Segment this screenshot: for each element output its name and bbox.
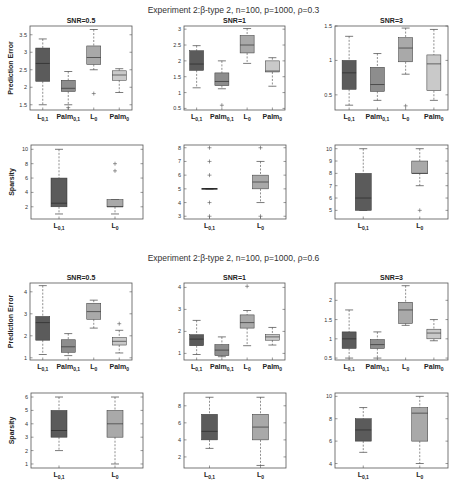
y-tick-label: 9	[329, 158, 332, 164]
y-tick-label: 3	[25, 434, 28, 440]
y-tick-label: 1.5	[19, 102, 27, 108]
box	[87, 46, 101, 65]
y-tick-label: 6	[178, 420, 181, 426]
y-tick-label: 6	[329, 195, 332, 201]
y-tick-label: 2	[25, 204, 28, 210]
x-tick-label: L0	[402, 113, 409, 122]
y-axis-label: Sparsity	[8, 168, 16, 196]
x-tick-label: L0,1	[358, 222, 369, 231]
y-tick-label: 4	[178, 200, 181, 206]
x-tick-label: L0,1	[37, 113, 48, 122]
boxplot-panel: 2468L0,1L0	[178, 393, 286, 480]
y-tick-label: 10	[22, 146, 28, 152]
x-tick-label: Palm0,1	[366, 363, 390, 372]
y-tick-label: 7	[329, 183, 332, 189]
axes-frame	[31, 393, 143, 468]
box	[399, 38, 413, 62]
y-tick-label: 4	[25, 421, 28, 427]
x-tick-label: Palm0,1	[210, 113, 234, 122]
y-tick-label: 0.5	[173, 105, 181, 111]
y-tick-label: 1.5	[173, 74, 181, 80]
x-tick-label: L0,1	[191, 113, 202, 122]
panel-title: SNR=3	[380, 17, 403, 24]
box	[190, 335, 204, 346]
boxplot-panel: 0.511.52SNR=3L0,1Palm0,1L0Palm0	[324, 274, 448, 372]
y-tick-label: 2	[24, 333, 27, 339]
axes-frame	[335, 393, 448, 468]
box	[355, 173, 371, 210]
x-tick-label: L0,1	[204, 222, 215, 231]
axes-frame	[184, 393, 286, 468]
y-tick-label: 4	[24, 289, 27, 295]
y-tick-label: 7	[178, 158, 181, 164]
y-tick-label: 10	[326, 393, 332, 399]
x-tick-label: Palm0,1	[210, 363, 234, 372]
y-tick-label: 4	[178, 284, 181, 290]
y-tick-label: 5	[178, 186, 181, 192]
y-tick-label: 6	[329, 438, 332, 444]
y-tick-label: 4	[329, 461, 332, 467]
y-tick-label: 2	[178, 58, 181, 64]
box	[36, 48, 50, 81]
box	[202, 414, 218, 440]
y-tick-label: 5	[329, 207, 332, 213]
x-tick-label: L0,1	[344, 363, 355, 372]
panel-title: SNR=1	[223, 274, 246, 281]
y-tick-label: 4	[25, 189, 28, 195]
y-tick-label: 6	[25, 394, 28, 400]
y-tick-label: 2	[329, 297, 332, 303]
y-tick-label: 2.5	[173, 42, 181, 48]
y-axis-label: Prediction Error	[7, 295, 14, 349]
y-tick-label: 1	[25, 461, 28, 467]
box	[51, 178, 67, 207]
y-tick-label: 1	[178, 90, 181, 96]
boxplot-panel: 345678L0,1L0	[178, 145, 286, 231]
x-tick-label: L0	[111, 471, 118, 480]
box	[265, 61, 279, 72]
box	[107, 200, 123, 207]
y-tick-label: 8	[178, 145, 181, 151]
box	[61, 340, 75, 353]
x-tick-label: L0	[257, 222, 264, 231]
y-tick-label: 0.5	[324, 92, 332, 98]
x-tick-label: L0,1	[204, 471, 215, 480]
box	[399, 302, 413, 323]
box	[265, 335, 279, 341]
y-tick-label: 10	[326, 146, 332, 152]
y-tick-label: 3	[178, 213, 181, 219]
x-tick-label: L0,1	[344, 113, 355, 122]
y-tick-label: 3.5	[19, 32, 27, 38]
box	[342, 332, 356, 349]
box	[240, 315, 254, 328]
y-axis-label: Prediction Error	[7, 41, 14, 95]
axes-frame	[31, 145, 143, 219]
y-axis-label: Sparsity	[8, 417, 16, 445]
x-tick-label: Palm0,1	[56, 113, 80, 122]
x-tick-label: L0	[244, 363, 251, 372]
x-tick-label: Palm0	[263, 113, 283, 122]
box	[190, 51, 204, 71]
panel-title: SNR=3	[380, 274, 403, 281]
y-tick-label: 1.5	[324, 317, 332, 323]
boxplot-panel: 1234SNR=0.5Prediction ErrorL0,1Palm0,1L0…	[7, 274, 132, 372]
x-tick-label: L0	[90, 113, 97, 122]
y-tick-label: 1	[24, 355, 27, 361]
box	[240, 36, 254, 53]
x-tick-label: Palm0	[424, 113, 444, 122]
boxplot-panel: 0.511.5SNR=3L0,1Palm0,1L0Palm0	[324, 17, 448, 122]
x-tick-label: L0	[257, 471, 264, 480]
box	[427, 329, 441, 339]
box	[51, 410, 67, 437]
y-tick-label: 3	[178, 26, 181, 32]
x-tick-label: L0	[402, 363, 409, 372]
y-tick-label: 8	[329, 416, 332, 422]
x-tick-label: Palm0	[424, 363, 444, 372]
boxplot-panel: 5678910L0,1L0	[326, 145, 448, 231]
y-tick-label: 6	[178, 172, 181, 178]
x-tick-label: L0,1	[53, 222, 64, 231]
y-tick-label: 3	[24, 49, 27, 55]
box	[87, 303, 101, 319]
axes-frame	[184, 145, 286, 219]
panel-title: SNR=0.5	[67, 17, 96, 24]
axes-frame	[335, 145, 448, 219]
